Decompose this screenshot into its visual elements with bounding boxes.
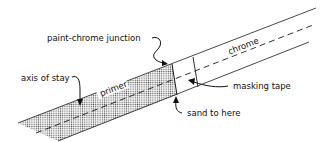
axis-arrow	[72, 77, 80, 101]
sand-label: sand to here	[187, 108, 241, 118]
junction-label: paint-chrome junction	[47, 33, 141, 43]
chrome-label: chrome	[227, 35, 261, 56]
stay-bottom-edge	[58, 42, 309, 141]
tape-arrow	[194, 82, 228, 87]
stay-diagram: primer chrome paint-chrome junction axis…	[0, 0, 331, 142]
tape-arrowhead-icon	[188, 78, 195, 85]
stay-top-edge	[18, 8, 316, 123]
sand-arrowhead-icon	[173, 96, 179, 103]
masking-tape-label: masking tape	[233, 81, 291, 91]
axis-label: axis of stay	[21, 73, 70, 83]
junction-arrow	[152, 37, 165, 63]
